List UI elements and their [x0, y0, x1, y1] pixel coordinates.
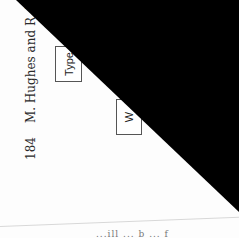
- diagram-box-label: Type: [63, 52, 75, 76]
- page-edge-line: [0, 214, 239, 227]
- body-text-fragment: ...ill ... b ... f: [96, 229, 169, 238]
- document-page: 184 M. Hughes and R. Ba Type W ...ill ..…: [0, 0, 239, 238]
- diagram-box-label: W: [123, 112, 135, 122]
- page-number: 184: [24, 137, 38, 160]
- running-header: 184 M. Hughes and R. Ba: [24, 0, 38, 160]
